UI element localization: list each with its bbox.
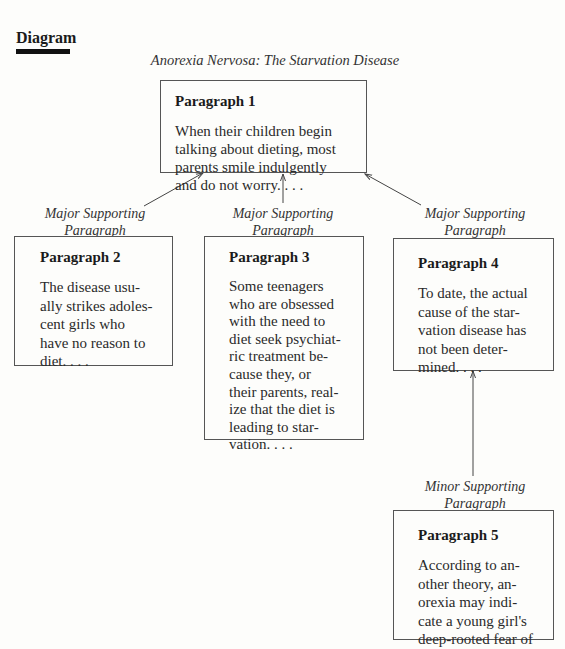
paragraph-1-heading: Paragraph 1 [175, 93, 366, 110]
paragraph-5-heading: Paragraph 5 [418, 527, 553, 544]
edge-label-p4: Major Supporting Paragraph [400, 205, 550, 239]
paragraph-3-text: Some teenagers who are obsessed with the… [229, 278, 363, 454]
paragraph-3-box: Paragraph 3 Some teenagers who are obses… [204, 236, 364, 440]
paragraph-3-heading: Paragraph 3 [229, 249, 363, 266]
paragraph-1-box: Paragraph 1 When their children begin ta… [160, 80, 367, 173]
paragraph-4-box: Paragraph 4 To date, the actual cause of… [393, 238, 554, 371]
edge-label-p2: Major Supporting Paragraph [20, 205, 170, 239]
paragraph-2-text: The disease usu- ally strikes adoles- ce… [40, 278, 172, 371]
paragraph-2-heading: Paragraph 2 [40, 249, 172, 266]
paragraph-5-text: According to an- other theory, an- orexi… [418, 556, 553, 649]
paragraph-1-text: When their children begin talking about … [175, 122, 366, 194]
paragraph-2-box: Paragraph 2 The disease usu- ally strike… [14, 236, 173, 366]
arrow-p4-to-p1 [365, 174, 421, 205]
paragraph-5-box: Paragraph 5 According to an- other theor… [393, 510, 554, 640]
paragraph-4-text: To date, the actual cause of the star- v… [418, 284, 553, 377]
edge-label-p5: Minor Supporting Paragraph [400, 478, 550, 512]
edge-label-p3: Major Supporting Paragraph [208, 205, 358, 239]
paragraph-4-heading: Paragraph 4 [418, 255, 553, 272]
